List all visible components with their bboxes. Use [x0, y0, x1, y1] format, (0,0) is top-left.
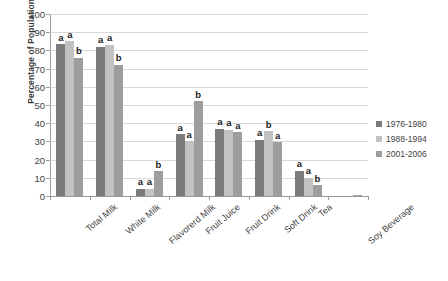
bar-2[interactable]: a [65, 14, 74, 196]
bar-rect[interactable] [233, 132, 242, 196]
bar-3[interactable]: b [74, 14, 83, 196]
bar-1[interactable]: a [96, 14, 105, 196]
significance-letter: b [76, 46, 82, 56]
x-axis-tick-mark [50, 196, 51, 200]
bar-group: aaa [209, 14, 249, 196]
significance-letter: a [107, 33, 112, 43]
legend-label: 2001-2006 [386, 149, 427, 159]
significance-letter: a [58, 33, 63, 43]
bar-3[interactable]: b [114, 14, 123, 196]
bar-rect[interactable] [154, 171, 163, 196]
bar-1[interactable]: a [136, 14, 145, 196]
bar-group: aab [50, 14, 90, 196]
bar-rect[interactable] [145, 189, 154, 196]
significance-letter: b [155, 160, 161, 170]
bar-1[interactable]: a [255, 14, 264, 196]
significance-letter: a [138, 177, 143, 187]
legend-label: 1976-1980 [386, 119, 427, 129]
plot-area: 0102030405060708090100aabaabaabaabaaaaba… [50, 14, 368, 196]
y-axis-tick-label: 0 [40, 191, 45, 202]
bar-rect[interactable] [105, 45, 114, 196]
x-axis-tick-mark [289, 196, 290, 200]
significance-letter: a [275, 131, 280, 141]
x-axis-tick-mark [368, 196, 369, 200]
y-axis-tick-label: 10 [34, 172, 45, 183]
bar-rect[interactable] [56, 44, 65, 196]
significance-letter: b [314, 174, 320, 184]
y-axis-tick-label: 90 [34, 27, 45, 38]
bar-rect[interactable] [313, 185, 322, 196]
bar-group: aba [249, 14, 289, 196]
significance-letter: a [217, 117, 222, 127]
bar-2[interactable]: a [105, 14, 114, 196]
bar-3[interactable]: b [194, 14, 203, 196]
significance-letter: a [306, 166, 311, 176]
x-axis-label: Soft Drink [283, 202, 320, 235]
bar-2[interactable]: b [264, 14, 273, 196]
bar-3[interactable]: a [273, 14, 282, 196]
bar-rect[interactable] [176, 134, 185, 196]
legend-swatch [376, 136, 382, 142]
bar-rect[interactable] [185, 141, 194, 196]
legend-swatch [376, 121, 382, 127]
x-axis-label: White Milk [124, 202, 162, 236]
bar-group: aab [90, 14, 130, 196]
significance-letter: a [257, 128, 262, 138]
x-axis-label: Fruit Drink [243, 202, 281, 236]
bar-3[interactable]: b [154, 14, 163, 196]
bar-rect[interactable] [304, 178, 313, 196]
y-axis-tick-label: 100 [29, 9, 45, 20]
bar-rect[interactable] [194, 101, 203, 196]
significance-letter: a [147, 177, 152, 187]
bar-3[interactable] [353, 14, 362, 196]
legend-item[interactable]: 1976-1980 [376, 116, 427, 131]
bar-rect[interactable] [114, 65, 123, 196]
bar-rect[interactable] [224, 130, 233, 196]
significance-letter: a [98, 35, 103, 45]
x-axis-tick-mark [169, 196, 170, 200]
bar-3[interactable]: b [313, 14, 322, 196]
significance-letter: b [116, 53, 122, 63]
bar-rect[interactable] [264, 131, 273, 196]
bar-rect[interactable] [136, 189, 145, 196]
significance-letter: b [195, 90, 201, 100]
bar-rect[interactable] [215, 129, 224, 196]
bar-2[interactable]: a [224, 14, 233, 196]
bar-3[interactable]: a [233, 14, 242, 196]
bar-2[interactable]: a [145, 14, 154, 196]
y-axis-tick-label: 40 [34, 118, 45, 129]
bar-rect[interactable] [255, 140, 264, 196]
legend-item[interactable]: 1988-1994 [376, 131, 427, 146]
bar-rect[interactable] [96, 47, 105, 196]
significance-letter: a [177, 123, 182, 133]
x-axis-tick-mark [328, 196, 329, 200]
bar-rect[interactable] [74, 58, 83, 196]
bar-rect[interactable] [273, 142, 282, 196]
bar-rect[interactable] [65, 41, 74, 196]
significance-letter: a [186, 130, 191, 140]
bar-1[interactable]: a [56, 14, 65, 196]
bar-1[interactable]: a [295, 14, 304, 196]
y-axis-tick-label: 20 [34, 154, 45, 165]
bar-2[interactable]: a [304, 14, 313, 196]
significance-letter: a [67, 30, 72, 40]
bar-1[interactable] [335, 14, 344, 196]
bar-group: aab [289, 14, 329, 196]
bar-1[interactable]: a [215, 14, 224, 196]
bar-group [328, 14, 368, 196]
bar-2[interactable] [344, 14, 353, 196]
bar-rect[interactable] [353, 195, 362, 196]
bar-chart: Percentage of Population, % 010203040506… [0, 0, 448, 281]
legend-swatch [376, 151, 382, 157]
y-axis-tick-label: 70 [34, 63, 45, 74]
bar-1[interactable]: a [176, 14, 185, 196]
x-axis-tick-mark [130, 196, 131, 200]
legend-item[interactable]: 2001-2006 [376, 146, 427, 161]
y-axis-tick-label: 50 [34, 100, 45, 111]
x-axis-label: Tea [317, 202, 335, 219]
significance-letter: b [266, 120, 272, 130]
bar-rect[interactable] [295, 171, 304, 196]
bar-2[interactable]: a [185, 14, 194, 196]
x-axis-tick-mark [209, 196, 210, 200]
significance-letter: a [235, 121, 240, 131]
